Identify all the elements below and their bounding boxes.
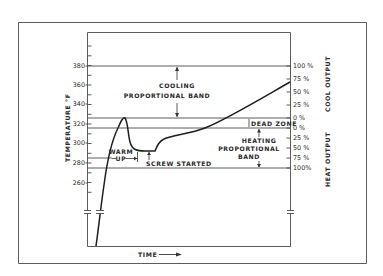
y-tick-label: 260 xyxy=(73,179,85,187)
right-tick-label: 50 % xyxy=(293,88,309,96)
dead-zone-label: DEAD ZONE xyxy=(251,120,297,127)
y-tick-label: 380 xyxy=(73,62,85,70)
warm-up-label-1: WARM xyxy=(109,148,134,155)
x-axis-title: TIME xyxy=(138,251,157,258)
right-tick-label: 75 % xyxy=(293,154,309,162)
heat-output-title: HEAT OUTPUT xyxy=(324,132,331,187)
cool-output-title: COOL OUTPUT xyxy=(324,56,331,112)
screw-started-label: SCREW STARTED xyxy=(146,160,212,167)
y-tick-label: 320 xyxy=(73,120,85,128)
heating-band-label-1: HEATING xyxy=(242,137,277,144)
right-axis-ticks xyxy=(287,66,291,168)
y-axis-ticks xyxy=(88,46,92,192)
right-tick-label: 25 % xyxy=(293,101,309,109)
y-tick-label: 340 xyxy=(73,100,85,108)
left-axis-break xyxy=(84,211,91,214)
heating-band-label-3: BAND xyxy=(238,153,260,160)
warm-up-label-2: UP xyxy=(116,155,127,162)
time-arrow-icon xyxy=(159,253,182,257)
y-tick-label: 280 xyxy=(73,159,85,167)
right-tick-label: 75 % xyxy=(293,75,309,83)
heating-band-label-2: PROPORTIONAL xyxy=(218,145,280,152)
cooling-band-label-1: COOLING xyxy=(159,82,195,89)
right-tick-label: 25 % xyxy=(293,134,309,142)
cooling-band-label-2: PROPORTIONAL BAND xyxy=(124,92,211,99)
y-tick-label: 300 xyxy=(73,139,85,147)
right-axis-break xyxy=(287,211,294,214)
right-tick-label: 100% xyxy=(293,164,311,172)
right-axis-labels: 100 %75 %50 %25 %0 %0 %25 %50 %75 %100% xyxy=(293,62,313,172)
y-axis-title: TEMPERATURE °F xyxy=(64,93,71,162)
right-tick-label: 100 % xyxy=(293,62,313,70)
chart-canvas: COOLING PROPORTIONAL BAND DEAD ZONE HEAT… xyxy=(0,0,383,276)
y-axis-labels: 380360340320300280260 xyxy=(73,62,88,187)
right-tick-label: 0 % xyxy=(293,114,305,122)
right-tick-label: 0 % xyxy=(293,124,305,132)
y-tick-label: 360 xyxy=(73,81,85,89)
curve-break xyxy=(96,211,104,214)
right-tick-label: 50 % xyxy=(293,144,309,152)
